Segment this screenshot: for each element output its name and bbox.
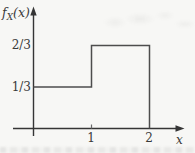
x-tick-label-1: 1 <box>85 131 97 145</box>
y-axis-label-arg: (x) <box>13 5 30 20</box>
x-tick-label-2: 2 <box>143 131 155 145</box>
y-tick-label-one-third: 1/3 <box>4 80 31 94</box>
x-axis-arrow-icon <box>176 125 185 131</box>
pdf-step-figure: fX(x) 2/3 1/3 1 2 x <box>0 0 195 153</box>
x-axis-label: x <box>176 133 183 147</box>
y-axis-arrow-icon <box>30 7 36 16</box>
y-tick-label-two-thirds: 2/3 <box>4 38 31 52</box>
pdf-step-line <box>34 46 150 129</box>
y-axis-label: fX(x) <box>2 6 30 24</box>
